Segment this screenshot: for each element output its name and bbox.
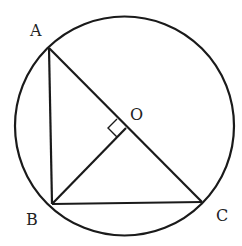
label-o: O <box>130 105 143 124</box>
label-b: B <box>26 210 38 229</box>
segment-bo <box>52 128 126 204</box>
geometry-diagram: A O B C <box>0 0 242 246</box>
label-a: A <box>29 21 42 40</box>
segment-bc <box>52 202 202 204</box>
label-c: C <box>216 206 228 225</box>
right-angle-marker <box>108 119 117 137</box>
segment-ab <box>49 48 52 204</box>
segment-ac <box>49 48 202 202</box>
